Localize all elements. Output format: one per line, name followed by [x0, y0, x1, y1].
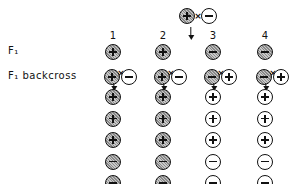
progeny-minus-shaded-icon — [155, 175, 171, 184]
down-arrow-icon — [163, 83, 164, 87]
column-number-1: 1 — [110, 30, 116, 41]
progeny-plus-open-icon — [257, 132, 273, 148]
f1-plus-shaded-icon — [105, 44, 121, 60]
column-number-4: 4 — [262, 30, 268, 41]
f1-minus-shaded-icon — [205, 44, 221, 60]
column-number-2: 2 — [160, 30, 166, 41]
backcross-parent-minus-open-icon — [121, 69, 137, 85]
progeny-minus-open-icon — [257, 154, 273, 170]
row-label-f1-backcross: F₁ backcross — [8, 70, 77, 81]
backcross-parent-plus-open-icon — [273, 69, 289, 85]
progeny-minus-open-icon — [205, 175, 221, 184]
parent-plus-shaded-icon — [179, 8, 195, 24]
row-label-f1: F₁ — [8, 45, 19, 56]
progeny-minus-open-icon — [257, 175, 273, 184]
f1-plus-shaded-icon — [155, 44, 171, 60]
progeny-plus-open-icon — [205, 111, 221, 127]
column-number-3: 3 — [210, 30, 216, 41]
progeny-plus-shaded-icon — [105, 132, 121, 148]
f1-minus-shaded-icon — [257, 44, 273, 60]
progeny-plus-shaded-icon — [155, 132, 171, 148]
progeny-plus-open-icon — [257, 111, 273, 127]
progeny-plus-shaded-icon — [105, 111, 121, 127]
progeny-minus-shaded-icon — [105, 175, 121, 184]
parent-minus-open-icon — [201, 8, 217, 24]
backcross-parent-minus-open-icon — [171, 69, 187, 85]
progeny-plus-open-icon — [205, 132, 221, 148]
progeny-minus-shaded-icon — [155, 154, 171, 170]
progeny-minus-shaded-icon — [105, 154, 121, 170]
progeny-plus-open-icon — [257, 89, 273, 105]
progeny-plus-open-icon — [205, 89, 221, 105]
down-arrow-icon — [213, 83, 214, 87]
down-arrow-icon — [113, 83, 114, 87]
down-arrow-icon — [265, 83, 266, 87]
progeny-minus-open-icon — [205, 154, 221, 170]
progeny-plus-shaded-icon — [155, 111, 171, 127]
progeny-plus-shaded-icon — [105, 89, 121, 105]
down-arrow-icon — [190, 27, 191, 36]
backcross-parent-plus-open-icon — [221, 69, 237, 85]
progeny-plus-shaded-icon — [155, 89, 171, 105]
